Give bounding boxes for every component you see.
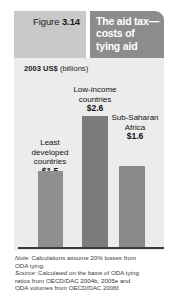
footnote-note-text-cont: ODA tying. (15, 262, 45, 269)
figure-footnotes: Note: Calculations assume 20% losses fro… (15, 254, 165, 292)
footnote-source-lead: Source: (15, 269, 36, 276)
figure-number-box: Figure 3.14 (14, 11, 86, 58)
figure-title-line-2: costs of (96, 27, 161, 39)
figure-number-value: 3.14 (62, 16, 80, 27)
figure-title: The aid tax— costs of tying aid (96, 15, 161, 52)
footnote-note-line-1: Note: Calculations assume 20% losses fro… (15, 254, 165, 262)
figure-title-box: The aid tax— costs of tying aid (90, 11, 164, 58)
footnote-source-line-3: ODA volumes from OECD/DAC 2006f. (15, 284, 165, 292)
bar-category-line-1: Sub-Saharan (107, 113, 163, 123)
footnote-source-text: Calculated on the basis of ODA tying (36, 269, 139, 276)
chart-plot-area: 2003 US$ (billions) Least developed coun… (14, 58, 164, 250)
footnote-source-line-1: Source: Calculated on the basis of ODA t… (15, 269, 165, 277)
bar-least-developed-countries (38, 171, 63, 247)
axis-unit-scale: (billions) (60, 64, 88, 73)
footnote-source-line-2: ratios from OECD/DAC 2004b, 2005e and (15, 277, 165, 285)
figure-number-prefix: Figure (33, 16, 59, 27)
footnote-source-text-cont-2: ODA volumes from OECD/DAC 2006f. (15, 284, 120, 291)
figure-title-line-3: tying aid (96, 40, 161, 52)
chart-baseline-axis (18, 247, 164, 249)
bar-label-low-income-countries: Low-income countries $2.6 (57, 85, 133, 114)
bar-sub-saharan-africa (119, 166, 145, 247)
axis-unit-label: 2003 US$ (billions) (24, 64, 88, 73)
figure-header: Figure 3.14 The aid tax— costs of tying … (14, 11, 164, 58)
footnote-source-text-cont-1: ratios from OECD/DAC 2004b, 2005e and (15, 277, 130, 284)
axis-unit-currency: 2003 US$ (24, 64, 58, 73)
bar-category-line-2: developed (12, 148, 88, 158)
bar-low-income-countries (82, 116, 108, 247)
bar-category-line-1: Low-income (57, 85, 133, 95)
bar-label-sub-saharan-africa: Sub-Saharan Africa $1.6 (107, 113, 163, 142)
bar-category-line-1: Least (12, 138, 88, 148)
footnote-note-text: Calculations assume 20% losses from (30, 254, 136, 261)
figure-container: Figure 3.14 The aid tax— costs of tying … (0, 0, 177, 304)
bar-value-label: $1.6 (107, 132, 163, 142)
figure-number-label: Figure 3.14 (14, 16, 80, 27)
figure-title-line-1: The aid tax— (96, 15, 161, 27)
footnote-note-line-2: ODA tying. (15, 262, 165, 270)
footnote-note-lead: Note: (15, 254, 30, 261)
